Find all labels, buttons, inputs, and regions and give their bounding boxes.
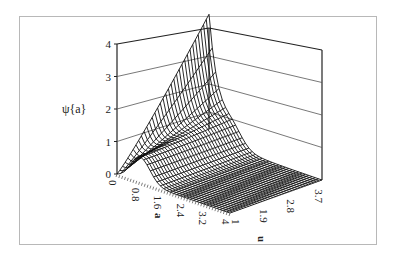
- a-minor-tick: [204, 204, 205, 207]
- gridline-right: [209, 112, 322, 148]
- a-minor-tick: [178, 195, 179, 198]
- a-minor-tick: [136, 181, 137, 184]
- a-minor-tick: [167, 192, 168, 195]
- a-minor-tick: [127, 178, 128, 181]
- z-axis-ticks: 01234: [106, 38, 118, 180]
- left-wall-top: [117, 28, 209, 44]
- a-minor-tick: [150, 186, 151, 189]
- u-axis-label: u: [256, 236, 268, 242]
- a-minor-tick: [164, 191, 165, 194]
- a-minor-tick: [212, 207, 213, 210]
- a-minor-tick: [189, 199, 190, 202]
- a-minor-tick: [147, 185, 148, 188]
- z-tick-label: 4: [106, 38, 112, 50]
- a-minor-tick: [173, 194, 174, 197]
- a-axis-label: a: [153, 213, 165, 219]
- a-minor-tick: [139, 182, 140, 185]
- a-minor-tick: [144, 184, 145, 187]
- a-minor-tick: [153, 187, 154, 190]
- surface-line-a: [160, 152, 252, 186]
- a-minor-tick: [141, 183, 142, 186]
- a-minor-tick: [198, 202, 199, 205]
- z-axis-label: ψ{a}: [62, 102, 86, 116]
- a-minor-tick: [206, 205, 207, 208]
- u-tick-label: 3.7: [313, 189, 325, 203]
- u-tick-label: 1.9: [258, 209, 270, 223]
- surface-plot: 01234 00.81.62.43.24 11.92.83.7 ψ{a} a u: [0, 0, 396, 264]
- a-tick-label: 3.2: [197, 211, 209, 225]
- a-minor-tick: [226, 212, 227, 215]
- a-minor-tick: [170, 193, 171, 196]
- a-minor-tick: [209, 206, 210, 209]
- a-minor-tick: [122, 176, 123, 179]
- gridline-right: [209, 84, 322, 115]
- z-tick-label: 2: [106, 103, 112, 115]
- a-minor-tick: [215, 208, 216, 211]
- z-tick-label: 0: [106, 168, 112, 180]
- a-minor-tick: [229, 213, 230, 216]
- right-wall-top: [209, 28, 322, 50]
- a-minor-tick: [187, 198, 188, 201]
- a-minor-tick: [184, 197, 185, 200]
- z-tick-label: 1: [106, 136, 112, 148]
- a-minor-tick: [156, 188, 157, 191]
- surface-line-u: [206, 19, 319, 181]
- a-minor-tick: [175, 194, 176, 197]
- z-tick-label: 3: [106, 71, 112, 83]
- a-tick-label: 2.4: [175, 203, 187, 217]
- a-minor-tick: [223, 211, 224, 214]
- a-tick-label: 1.6: [152, 196, 164, 210]
- a-minor-tick: [181, 196, 182, 199]
- a-minor-tick: [161, 190, 162, 193]
- a-minor-tick: [195, 201, 196, 204]
- a-minor-tick: [218, 209, 219, 212]
- u-tick-label: 1: [230, 219, 242, 225]
- a-minor-tick: [133, 180, 134, 183]
- gridline-right: [209, 56, 322, 83]
- a-tick-label: 0.8: [130, 188, 142, 202]
- a-minor-tick: [130, 179, 131, 182]
- a-minor-tick: [119, 175, 120, 178]
- a-minor-tick: [158, 189, 159, 192]
- a-minor-tick: [124, 177, 125, 180]
- a-minor-tick: [192, 200, 193, 203]
- a-minor-tick: [201, 203, 202, 206]
- a-minor-tick: [221, 210, 222, 213]
- u-tick-label: 2.8: [285, 199, 297, 213]
- a-tick-label: 0: [107, 180, 119, 186]
